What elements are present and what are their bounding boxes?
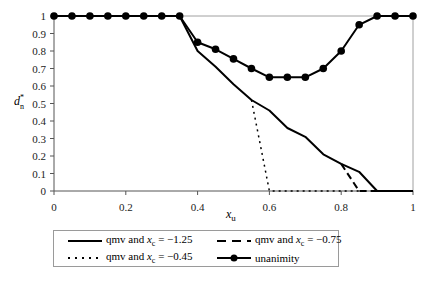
y-tick-label: 0.9 — [32, 28, 46, 40]
data-point-marker-icon — [158, 12, 166, 20]
data-point-marker-icon — [266, 73, 274, 81]
y-tick-label: 0.8 — [32, 45, 46, 57]
legend: qmv and xc = −1.25 qmv and xc = −0.75 qm… — [53, 230, 339, 267]
series-line — [252, 100, 360, 191]
data-point-marker-icon — [122, 12, 130, 20]
data-point-marker-icon — [104, 12, 112, 20]
legend-label: unanimity — [255, 252, 300, 264]
data-point-marker-icon — [248, 65, 256, 73]
data-point-marker-icon — [319, 65, 327, 73]
data-point-marker-icon — [284, 73, 292, 81]
solid-line-swatch-icon — [68, 236, 102, 246]
y-tick-label: 0.1 — [32, 168, 46, 180]
data-point-marker-icon — [409, 12, 417, 20]
data-point-marker-icon — [194, 38, 202, 46]
dotted-line-swatch-icon — [68, 253, 102, 263]
data-point-marker-icon — [230, 55, 238, 63]
dashed-line-swatch-icon — [217, 236, 251, 246]
legend-item-qmv-1-25: qmv and xc = −1.25 — [68, 233, 193, 249]
legend-item-qmv-0-45: qmv and xc = −0.45 — [68, 250, 193, 266]
data-point-marker-icon — [337, 47, 345, 55]
legend-item-unanimity: unanimity — [217, 250, 300, 266]
x-axis-label: xu — [225, 207, 236, 223]
legend-label: qmv and xc = −0.45 — [106, 250, 193, 265]
data-point-marker-icon — [68, 12, 76, 20]
legend-label: qmv and xc = −0.75 — [255, 233, 342, 248]
y-tick-label: 0.4 — [32, 115, 46, 127]
y-tick-label: 0.3 — [32, 133, 46, 145]
y-axis-label: d*n — [14, 93, 24, 111]
series-lines — [50, 12, 417, 191]
x-tick-label: 1 — [410, 201, 416, 213]
series-line — [54, 16, 413, 191]
data-point-marker-icon — [373, 12, 381, 20]
x-tick-label: 0.4 — [191, 201, 205, 213]
data-point-marker-icon — [391, 12, 399, 20]
x-tick-label: 0.6 — [263, 201, 277, 213]
data-point-marker-icon — [86, 12, 94, 20]
y-tick-label: 0.5 — [32, 98, 46, 110]
data-point-marker-icon — [212, 45, 220, 53]
x-tick-label: 0 — [51, 201, 57, 213]
y-tick-label: 0.6 — [32, 80, 46, 92]
data-point-marker-icon — [302, 73, 310, 81]
y-tick-label: 0.7 — [32, 63, 46, 75]
data-point-marker-icon — [355, 21, 363, 29]
legend-label: qmv and xc = −1.25 — [106, 233, 193, 248]
line-chart: 00.10.20.30.40.50.60.70.80.9100.20.40.60… — [0, 0, 426, 230]
y-tick-label: 0 — [41, 185, 47, 197]
x-tick-label: 0.2 — [119, 201, 133, 213]
legend-item-qmv-0-75: qmv and xc = −0.75 — [217, 233, 342, 249]
data-point-marker-icon — [176, 12, 184, 20]
x-tick-label: 0.8 — [334, 201, 348, 213]
data-point-marker-icon — [140, 12, 148, 20]
data-point-marker-icon — [50, 12, 58, 20]
y-tick-label: 1 — [41, 10, 47, 22]
axes: 00.10.20.30.40.50.60.70.80.9100.20.40.60… — [32, 10, 416, 213]
line-with-marker-swatch-icon — [217, 253, 251, 263]
y-tick-label: 0.2 — [32, 150, 46, 162]
